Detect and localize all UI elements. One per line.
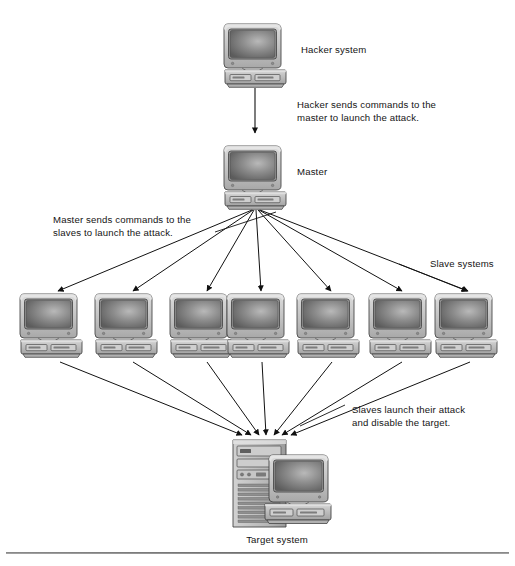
ddos-attack-diagram: Hacker system Hacker sends commands to t… [0,0,515,566]
label-hacker-system: Hacker system [301,44,366,57]
node-target-system [233,440,331,527]
node-master [224,146,286,209]
node-slave-7 [435,294,497,357]
node-slave-2 [95,294,157,357]
label-hacker-commands: Hacker sends commands to the master to l… [297,99,436,124]
diagram-canvas [0,0,515,566]
label-master-commands: Master sends commands to the slaves to l… [53,214,191,239]
node-hacker-system [224,24,286,87]
label-slaves-attack: Slaves launch their attack and disable t… [352,404,465,429]
node-slave-1 [20,294,82,357]
bottom-divider [6,552,509,554]
label-master: Master [297,166,327,179]
label-target-system: Target system [233,534,321,547]
node-slave-3 [170,294,232,357]
label-slave-systems: Slave systems [430,258,494,271]
node-slave-4 [227,294,289,357]
node-slave-5 [297,294,359,357]
node-slave-6 [369,294,431,357]
